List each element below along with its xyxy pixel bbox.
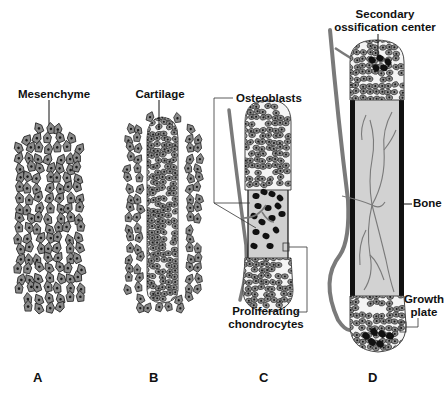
panel-c-primary-ossification	[229, 96, 295, 312]
panel-letter-b: B	[149, 370, 158, 385]
panel-d-secondary-ossification	[329, 30, 406, 353]
label-bone: Bone	[413, 197, 442, 210]
diagram-canvas	[0, 0, 446, 393]
label-secondary-line1: Secondary	[330, 8, 440, 21]
label-proliferating-line1: Proliferating	[226, 305, 306, 318]
panel-a-mesenchyme-cells	[12, 100, 87, 315]
label-osteoblasts: Osteoblasts	[236, 92, 302, 105]
label-mesenchyme: Mesenchyme	[18, 88, 82, 101]
label-growth-plate: Growth plate	[402, 293, 446, 319]
panel-letter-a: A	[33, 370, 42, 385]
label-growth-line1: Growth	[402, 293, 446, 306]
panel-letter-c: C	[259, 370, 268, 385]
label-plate-line2: plate	[402, 306, 446, 319]
label-ossification-center-line2: ossification center	[330, 21, 440, 34]
panel-b-cartilage	[122, 100, 205, 313]
label-secondary-ossification-center: Secondary ossification center	[330, 8, 440, 34]
endochondral-ossification-figure: Mesenchyme Cartilage Osteoblasts Prolife…	[0, 0, 446, 393]
panel-letter-d: D	[368, 370, 377, 385]
label-cartilage: Cartilage	[132, 88, 188, 101]
label-proliferating-chondrocytes: Proliferating chondrocytes	[226, 305, 306, 331]
label-chondrocytes-line2: chondrocytes	[226, 318, 306, 331]
